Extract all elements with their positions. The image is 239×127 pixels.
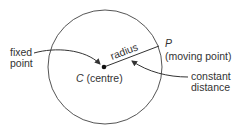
circle-diagram: radius fixed point C (centre) P (moving … [0,0,239,127]
centre-suffix: (centre) [84,72,123,84]
constant-distance-label: constant distance [191,70,234,93]
fixed-point-label: fixed point [10,46,35,69]
point-p-description: (moving point) [165,50,232,62]
point-p-letter: P [165,37,172,49]
constant-distance-arrow [132,61,188,77]
centre-dot [102,65,107,70]
constant-distance-label-line2: distance [191,81,230,93]
fixed-point-label-line2: point [10,57,33,69]
radius-label: radius [108,40,139,61]
fixed-point-arrow [34,50,100,64]
centre-label: C (centre) [76,72,123,84]
